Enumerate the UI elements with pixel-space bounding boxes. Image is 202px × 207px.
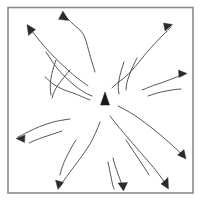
radial-arrow-diagram — [0, 0, 202, 207]
figure-root — [0, 0, 202, 207]
